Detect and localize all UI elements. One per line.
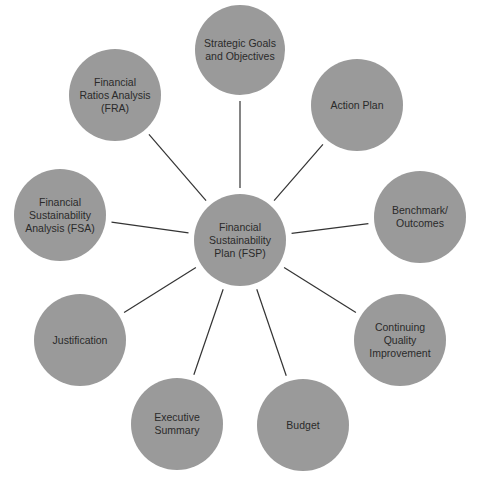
node-fra: Financial Ratios Analysis (FRA) [69,49,161,141]
node-justification-label: Justification [53,334,108,347]
node-fra-label: Financial Ratios Analysis (FRA) [79,76,150,115]
connector-cqi [284,268,356,313]
node-fsa: Financial Sustainability Analysis (FSA) [14,169,106,261]
node-executive-summary: Executive Summary [131,378,223,470]
node-cqi: Continuing Quality Improvement [354,294,446,386]
node-fsa-label: Financial Sustainability Analysis (FSA) [25,196,94,235]
node-center-fsp-label: Financial Sustainability Plan (FSP) [209,221,271,260]
connector-benchmark [292,224,369,234]
node-budget-label: Budget [286,419,319,432]
connector-fsa [112,222,189,233]
node-center-fsp: Financial Sustainability Plan (FSP) [194,194,286,286]
node-budget: Budget [257,379,349,471]
node-action-plan-label: Action Plan [330,99,383,112]
node-strategic-goals: Strategic Goals and Objectives [195,5,285,95]
connector-justification [124,268,196,313]
node-strategic-goals-label: Strategic Goals and Objectives [204,37,276,63]
node-cqi-label: Continuing Quality Improvement [369,321,430,360]
node-benchmark-label: Benchmark/ Outcomes [392,204,448,230]
connector-action-plan [274,144,323,200]
node-benchmark: Benchmark/ Outcomes [374,171,466,263]
node-justification: Justification [34,294,126,386]
connector-budget [257,289,286,376]
connector-executive-summary [194,289,223,375]
node-action-plan: Action Plan [311,59,403,151]
connector-fra [149,134,206,200]
node-executive-summary-label: Executive Summary [154,411,200,437]
